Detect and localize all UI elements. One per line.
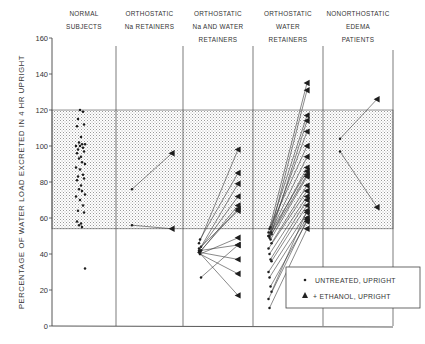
svg-text:PATIENTS: PATIENTS [342,36,375,43]
category-headers: NORMALSUBJECTSORTHOSTATICNa RETAINERSORT… [66,10,390,43]
svg-text:Na RETAINERS: Na RETAINERS [125,23,175,30]
svg-text:RETAINERS: RETAINERS [199,36,238,43]
svg-text:60: 60 [40,214,48,223]
svg-text:Na AND WATER: Na AND WATER [193,23,244,30]
svg-text:EDEMA: EDEMA [346,23,371,30]
legend-label-ethanol: + ETHANOL, UPRIGHT [313,293,391,300]
svg-text:RETAINERS: RETAINERS [269,36,308,43]
svg-text:WATER: WATER [276,23,300,30]
svg-text:0: 0 [44,322,48,331]
legend: UNTREATED, UPRIGHT + ETHANOL, UPRIGHT [286,267,420,308]
svg-text:NONORTHOSTATIC: NONORTHOSTATIC [326,10,389,17]
svg-text:80: 80 [40,178,48,187]
chart-figure: 020406080100120140160 PERCENTAGE OF WATE… [0,0,425,344]
svg-text:40: 40 [40,250,48,259]
svg-text:160: 160 [35,34,48,43]
dot-marker-icon [304,279,307,282]
svg-text:100: 100 [35,142,48,151]
legend-label-untreated: UNTREATED, UPRIGHT [315,277,396,284]
svg-text:20: 20 [40,286,48,295]
svg-text:140: 140 [35,70,48,79]
y-axis-ticks: 020406080100120140160 [35,34,52,331]
svg-text:NORMAL: NORMAL [69,10,98,17]
svg-text:ORTHOSTATIC: ORTHOSTATIC [194,10,242,17]
svg-text:ORTHOSTATIC: ORTHOSTATIC [125,10,173,17]
normal-range-band [52,110,393,229]
y-axis-label: PERCENTAGE OF WATER LOAD EXCRETED IN 4 H… [17,55,26,309]
svg-text:120: 120 [35,106,48,115]
svg-text:ORTHOSTATIC: ORTHOSTATIC [264,10,312,17]
svg-text:SUBJECTS: SUBJECTS [66,23,102,30]
